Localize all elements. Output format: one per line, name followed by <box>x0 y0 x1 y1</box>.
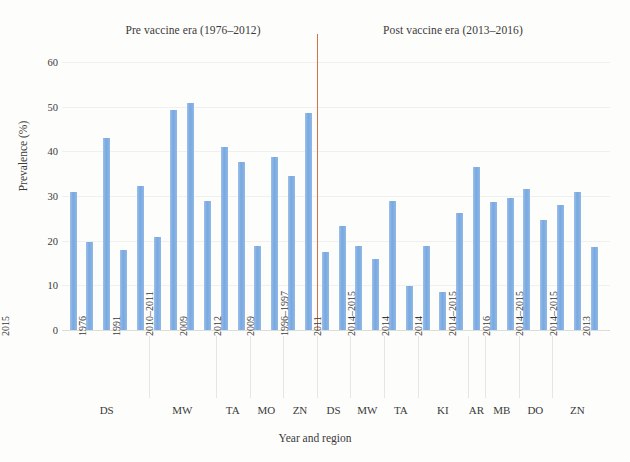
x-axis-year-label: 2010–2011 <box>144 291 155 336</box>
region-label-mw-6: MW <box>357 404 377 416</box>
region-separator <box>468 336 469 398</box>
bar <box>389 201 396 330</box>
x-axis-year-label: 2011 <box>312 316 323 336</box>
x-axis-year-label: 2014 <box>380 316 391 336</box>
region-label-do-11: DO <box>527 404 543 416</box>
y-axis-tick: 40 <box>32 146 58 157</box>
bar <box>170 110 177 330</box>
bar <box>540 220 547 330</box>
region-separator <box>250 336 251 398</box>
x-axis-year-label: 2013 <box>581 316 592 336</box>
era-title-post-vaccine: Post vaccine era (2013–2016) <box>338 24 568 36</box>
region-separator <box>552 336 553 398</box>
region-label-ds-0: DS <box>100 404 114 416</box>
x-axis-year-label: 2016 <box>481 316 492 336</box>
bar <box>238 162 245 330</box>
y-axis-tick: 30 <box>32 191 58 202</box>
gridline <box>62 62 610 63</box>
bar <box>372 259 379 330</box>
bar <box>305 113 312 330</box>
x-axis-year-label: 2014–2015 <box>548 291 559 336</box>
y-axis-title: Prevalence (%) <box>17 81 29 231</box>
bar <box>70 192 77 330</box>
region-separator <box>317 336 318 398</box>
region-separator <box>519 336 520 398</box>
x-axis-year-label: 2009 <box>178 316 189 336</box>
region-separator <box>485 336 486 398</box>
y-axis-tick: 0 <box>32 325 58 336</box>
y-axis-tick-labels: 0102030405060 <box>26 0 58 462</box>
gridline <box>62 151 610 152</box>
x-axis-year-label: 1996–1997 <box>279 291 290 336</box>
x-axis-year-label: 2014–2015 <box>514 291 525 336</box>
region-label-ar-9: AR <box>469 404 484 416</box>
bar <box>271 157 278 330</box>
bar <box>103 138 110 330</box>
bar <box>221 147 228 330</box>
bar <box>187 103 194 330</box>
region-label-ki-8: KI <box>437 404 449 416</box>
region-label-ds-5: DS <box>327 404 341 416</box>
region-separator <box>216 336 217 398</box>
region-label-ta-2: TA <box>226 404 240 416</box>
plot-area <box>62 62 610 330</box>
era-divider-line <box>317 34 318 330</box>
x-axis-year-label: 2014 <box>413 316 424 336</box>
bar <box>574 192 581 330</box>
x-axis-year-label: 2009 <box>245 316 256 336</box>
bar <box>439 292 446 330</box>
region-label-mb-10: MB <box>493 404 510 416</box>
bar <box>507 198 514 330</box>
bar-chart: Pre vaccine era (1976–2012) Post vaccine… <box>0 0 630 462</box>
x-axis-year-label: 2014–2015 <box>447 291 458 336</box>
region-separator <box>350 336 351 398</box>
bar <box>406 286 413 330</box>
bar <box>339 226 346 330</box>
region-label-zn-4: ZN <box>293 404 308 416</box>
y-axis-tick: 60 <box>32 57 58 68</box>
y-axis-tick: 10 <box>32 280 58 291</box>
gridline <box>62 107 610 108</box>
region-separator <box>384 336 385 398</box>
region-label-zn-12: ZN <box>570 404 585 416</box>
y-axis-tick: 50 <box>32 101 58 112</box>
x-axis-year-label: 1991 <box>111 316 122 336</box>
era-title-pre-vaccine: Pre vaccine era (1976–2012) <box>78 24 308 36</box>
region-separator <box>418 336 419 398</box>
x-axis-title: Year and region <box>0 432 630 444</box>
bar <box>204 201 211 330</box>
x-axis-year-label: 2014–2015 <box>346 291 357 336</box>
bar <box>473 167 480 330</box>
y-axis-tick: 20 <box>32 235 58 246</box>
x-axis-year-label: 2012 <box>212 316 223 336</box>
bar <box>490 202 497 330</box>
region-label-mo-3: MO <box>258 404 276 416</box>
region-separator <box>149 336 150 398</box>
region-label-mw-1: MW <box>172 404 192 416</box>
bar <box>137 186 144 330</box>
x-axis-year-label: 2015 <box>0 316 11 336</box>
region-label-ta-7: TA <box>394 404 408 416</box>
x-axis-year-label: 1976 <box>77 316 88 336</box>
region-separator <box>283 336 284 398</box>
